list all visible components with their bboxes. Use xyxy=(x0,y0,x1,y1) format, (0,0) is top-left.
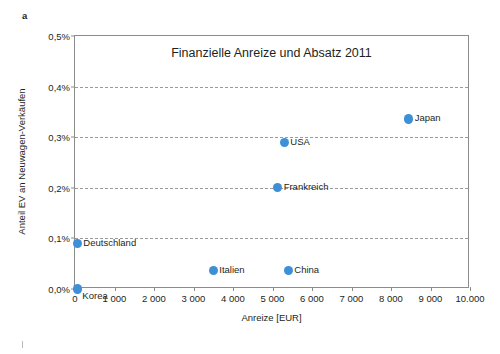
y-tick-mark xyxy=(71,86,75,87)
footer-tick-mark xyxy=(22,341,23,348)
data-point-marker xyxy=(284,266,293,275)
x-axis-title: Anreize [EUR] xyxy=(74,312,469,323)
x-tick-mark xyxy=(312,287,313,291)
data-point-label: China xyxy=(294,264,319,275)
panel-label: a xyxy=(22,10,27,21)
data-point-marker xyxy=(280,138,289,147)
x-tick-label: 3 000 xyxy=(182,293,206,304)
y-tick-label: 0,5% xyxy=(48,31,70,42)
y-tick-label: 0,2% xyxy=(48,182,70,193)
y-axis-title-text: Anteil EV an Neuwagen-Verkäufen xyxy=(16,88,27,234)
figure-panel-a: a Anteil EV an Neuwagen-Verkäufen Finanz… xyxy=(0,0,500,354)
data-point-marker xyxy=(209,266,218,275)
chart-title: Finanzielle Anreize und Absatz 2011 xyxy=(75,46,468,60)
x-tick-mark xyxy=(194,287,195,291)
data-point-label: Italien xyxy=(219,264,244,275)
y-tick-label: 0,0% xyxy=(48,284,70,295)
x-tick-label: 7 000 xyxy=(340,293,364,304)
x-tick-mark xyxy=(115,287,116,291)
x-tick-mark xyxy=(233,287,234,291)
y-tick-mark xyxy=(71,36,75,37)
x-tick-mark xyxy=(470,287,471,291)
x-tick-label: 8 000 xyxy=(379,293,403,304)
y-tick-mark xyxy=(71,137,75,138)
data-point-marker xyxy=(404,114,413,123)
x-tick-mark xyxy=(431,287,432,291)
x-tick-label: 6 000 xyxy=(300,293,324,304)
x-tick-label: 4 000 xyxy=(221,293,245,304)
y-tick-label: 0,3% xyxy=(48,132,70,143)
x-tick-mark xyxy=(391,287,392,291)
y-tick-label: 0,4% xyxy=(48,81,70,92)
x-tick-label: 10.000 xyxy=(455,293,484,304)
gridline xyxy=(75,188,468,189)
x-tick-label: 5 000 xyxy=(261,293,285,304)
data-point-marker xyxy=(273,183,282,192)
x-tick-label: 0 xyxy=(72,293,77,304)
y-tick-mark xyxy=(71,187,75,188)
data-point-marker xyxy=(73,239,82,248)
data-point-label: Deutschland xyxy=(83,237,136,248)
y-tick-label: 0,1% xyxy=(48,233,70,244)
data-point-label: Frankreich xyxy=(284,181,329,192)
x-tick-label: 9 000 xyxy=(419,293,443,304)
gridline xyxy=(75,137,468,138)
data-point-label: Korea xyxy=(82,290,107,301)
x-tick-mark xyxy=(352,287,353,291)
plot-area: Finanzielle Anreize und Absatz 2011 0,0%… xyxy=(74,35,469,288)
data-point-label: USA xyxy=(290,136,310,147)
gridline xyxy=(75,87,468,88)
y-axis-title: Anteil EV an Neuwagen-Verkäufen xyxy=(13,35,29,288)
x-tick-mark xyxy=(154,287,155,291)
data-point-label: Japan xyxy=(415,112,441,123)
data-point-marker xyxy=(73,284,82,293)
x-tick-mark xyxy=(273,287,274,291)
x-tick-label: 2 000 xyxy=(142,293,166,304)
